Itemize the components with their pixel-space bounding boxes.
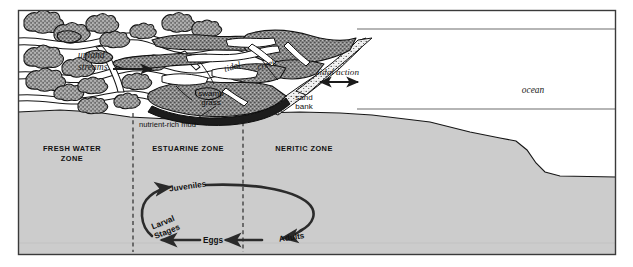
label-ocean: ocean xyxy=(522,85,545,95)
zone-label-fresh-water-line2: ZONE xyxy=(61,154,83,163)
label-sand-bank-line1: sand xyxy=(295,93,312,102)
zone-label-neritic: NERITIC ZONE xyxy=(275,144,333,153)
label-swamp-grass-line1: swamp xyxy=(198,89,224,98)
ocean-surface-region xyxy=(357,29,616,109)
label-tidal-action: tidal action xyxy=(317,67,360,77)
zone-label-estuarine: ESTUARINE ZONE xyxy=(152,144,224,153)
zone-label-fresh-water-line1: FRESH WATER xyxy=(43,144,101,153)
diagram-canvas: upland streams tidal creek swamp grass s… xyxy=(0,0,633,267)
label-upland-streams-line1: upland xyxy=(78,49,105,60)
label-swamp-grass-line2: grass xyxy=(201,98,221,107)
label-nutrient-rich-mud: nutrient-rich mud xyxy=(139,120,196,129)
estuary-diagram-figure: upland streams tidal creek swamp grass s… xyxy=(0,0,633,267)
label-upland-streams-line2: streams xyxy=(78,61,108,72)
cycle-label-eggs: Eggs xyxy=(203,236,223,245)
label-sand-bank-line2: bank xyxy=(295,102,313,111)
illustration-body: upland streams tidal creek swamp grass s… xyxy=(18,10,616,255)
